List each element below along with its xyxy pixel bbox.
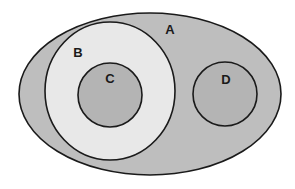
euler-diagram: A B C D bbox=[0, 0, 295, 189]
set-d-label: D bbox=[221, 72, 230, 87]
set-a-label: A bbox=[165, 22, 175, 37]
set-c-label: C bbox=[105, 71, 115, 86]
set-b-label: B bbox=[73, 45, 82, 60]
